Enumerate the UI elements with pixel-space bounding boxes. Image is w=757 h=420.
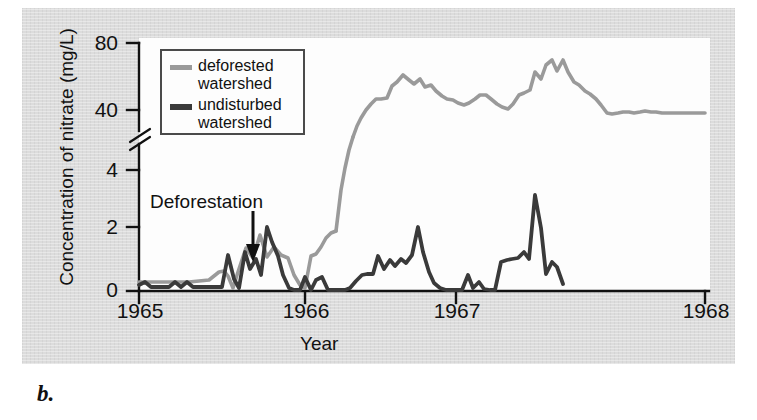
- series-undisturbed-watershed: [139, 195, 563, 290]
- series-deforested-upper-path: [353, 60, 705, 137]
- chart-svg: [0, 0, 757, 420]
- figure-caption-label: b.: [37, 381, 54, 407]
- figure-root: 80 40 4 2 0 1965 1966 1967 1968 Concentr…: [0, 0, 757, 420]
- series-deforested-break-riser: [336, 137, 353, 231]
- series-undisturbed-path: [139, 195, 563, 290]
